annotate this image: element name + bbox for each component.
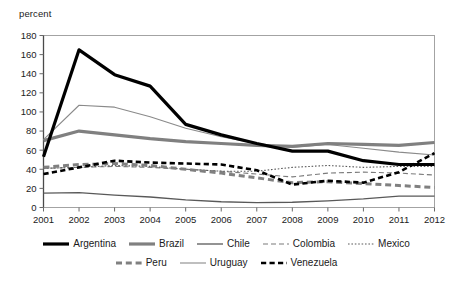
legend-item-mexico[interactable]: Mexico bbox=[348, 238, 410, 249]
legend-swatch-peru bbox=[116, 258, 142, 268]
y-axis-tick-label: 100 bbox=[21, 106, 37, 117]
legend-label-uruguay: Uruguay bbox=[210, 257, 248, 268]
legend-label-brazil: Brazil bbox=[159, 238, 184, 249]
x-axis-tick-label: 2001 bbox=[33, 214, 54, 225]
legend-swatch-chile bbox=[197, 239, 223, 249]
x-axis-tick-label: 2005 bbox=[175, 214, 196, 225]
legend-swatch-mexico bbox=[348, 239, 374, 249]
x-axis-tick-label: 2009 bbox=[317, 214, 338, 225]
legend-row-primary: ArgentinaBrazilChileColombiaMexico bbox=[0, 234, 453, 253]
legend-item-colombia[interactable]: Colombia bbox=[263, 238, 335, 249]
legend-item-peru[interactable]: Peru bbox=[116, 257, 167, 268]
x-tick-label-layer: 2001200220032004200520062007200820092010… bbox=[33, 214, 445, 225]
legend-label-colombia: Colombia bbox=[293, 238, 335, 249]
legend-swatch-brazil bbox=[129, 239, 155, 249]
legend-swatch-venezuela bbox=[261, 258, 287, 268]
legend-label-argentina: Argentina bbox=[73, 238, 116, 249]
y-tick-label-layer: 020406080100120140160180 bbox=[21, 30, 37, 213]
y-axis-tick-label: 160 bbox=[21, 49, 37, 60]
x-axis-tick-label: 2003 bbox=[104, 214, 125, 225]
x-axis-tick-label: 2008 bbox=[282, 214, 303, 225]
legend-item-brazil[interactable]: Brazil bbox=[129, 238, 184, 249]
chart-legend: ArgentinaBrazilChileColombiaMexico PeruU… bbox=[0, 234, 453, 272]
y-axis-tick-label: 180 bbox=[21, 30, 37, 41]
y-axis-tick-label: 0 bbox=[31, 202, 36, 213]
y-axis-tick-label: 120 bbox=[21, 87, 37, 98]
legend-swatch-uruguay bbox=[180, 258, 206, 268]
x-axis-tick-label: 2011 bbox=[389, 214, 409, 225]
legend-swatch-colombia bbox=[263, 239, 289, 249]
x-axis-tick-label: 2010 bbox=[353, 214, 374, 225]
y-axis-tick-label: 40 bbox=[26, 164, 37, 175]
y-axis-tick-label: 20 bbox=[26, 183, 37, 194]
line-chart-figure: percent 020406080100120140160180 2001200… bbox=[0, 0, 453, 281]
y-axis-tick-label: 140 bbox=[21, 68, 37, 79]
x-axis-tick-label: 2007 bbox=[246, 214, 267, 225]
legend-item-argentina[interactable]: Argentina bbox=[43, 238, 116, 249]
legend-item-chile[interactable]: Chile bbox=[197, 238, 250, 249]
legend-row-secondary: PeruUruguayVenezuela bbox=[0, 253, 453, 272]
legend-swatch-argentina bbox=[43, 239, 69, 249]
legend-item-venezuela[interactable]: Venezuela bbox=[261, 257, 338, 268]
legend-label-peru: Peru bbox=[146, 257, 167, 268]
x-axis-tick-label: 2006 bbox=[211, 214, 232, 225]
legend-label-venezuela: Venezuela bbox=[291, 257, 338, 268]
legend-label-chile: Chile bbox=[227, 238, 250, 249]
legend-label-mexico: Mexico bbox=[378, 238, 410, 249]
y-axis-tick-label: 80 bbox=[26, 125, 37, 136]
x-axis-tick-label: 2004 bbox=[140, 214, 161, 225]
x-axis-tick-label: 2002 bbox=[68, 214, 89, 225]
legend-item-uruguay[interactable]: Uruguay bbox=[180, 257, 248, 268]
x-axis-tick-label: 2012 bbox=[424, 214, 445, 225]
y-axis-tick-label: 60 bbox=[26, 145, 37, 156]
plot-frame bbox=[44, 36, 435, 208]
